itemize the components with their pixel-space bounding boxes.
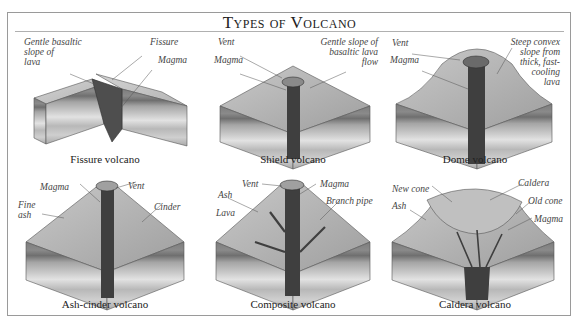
- panel-shield-volcano: Vent Magma Gentle slope of basaltic lava…: [200, 34, 386, 174]
- label-vent: Vent: [242, 179, 258, 189]
- caption-ash-cinder-volcano: Ash-cinder volcano: [12, 298, 198, 310]
- label-branch-pipe: Branch pipe: [326, 196, 373, 206]
- label-magma: Magma: [40, 182, 69, 192]
- panel-fissure-volcano: Gentle basaltic slope of lava Fissure Ma…: [12, 34, 198, 174]
- caption-fissure-volcano: Fissure volcano: [12, 153, 198, 165]
- label-fine-ash: Fine ash: [18, 200, 35, 220]
- caption-dome-volcano: Dome volcano: [382, 153, 568, 165]
- label-magma: Magma: [534, 214, 563, 224]
- title-divider: [15, 31, 564, 32]
- label-gentle-slope-basaltic: Gentle slope of basaltic lava flow: [308, 37, 378, 67]
- caption-shield-volcano: Shield volcano: [200, 153, 386, 165]
- label-magma: Magma: [158, 55, 187, 65]
- label-caldera: Caldera: [518, 178, 549, 188]
- label-cinder: Cinder: [154, 202, 180, 212]
- label-new-cone: New cone: [392, 184, 429, 194]
- panel-dome-volcano: Vent Magma Steep convex slope from thick…: [382, 34, 568, 174]
- label-old-cone: Old cone: [528, 196, 563, 206]
- label-steep-convex-slope: Steep convex slope from thick, fast- coo…: [492, 37, 560, 87]
- label-magma: Magma: [214, 55, 243, 65]
- label-gentle-basaltic-slope: Gentle basaltic slope of lava: [24, 37, 82, 67]
- label-vent: Vent: [128, 181, 144, 191]
- label-lava: Lava: [216, 208, 235, 218]
- panel-composite-volcano: Vent Magma Ash Branch pipe Lava Composit…: [200, 172, 386, 312]
- label-vent: Vent: [218, 37, 234, 47]
- diagram-title: Types of Volcano: [0, 13, 579, 33]
- label-magma: Magma: [390, 55, 419, 65]
- label-ash: Ash: [218, 190, 232, 200]
- label-vent: Vent: [392, 38, 408, 48]
- label-fissure: Fissure: [150, 37, 178, 47]
- caption-composite-volcano: Composite volcano: [200, 298, 386, 310]
- label-ash: Ash: [392, 201, 406, 211]
- label-magma: Magma: [320, 179, 349, 189]
- panel-caldera-volcano: New cone Caldera Ash Old cone Magma Cald…: [382, 172, 568, 312]
- panel-ash-cinder-volcano: Magma Vent Fine ash Cinder Ash-cinder vo…: [12, 172, 198, 312]
- caption-caldera-volcano: Caldera volcano: [382, 298, 568, 310]
